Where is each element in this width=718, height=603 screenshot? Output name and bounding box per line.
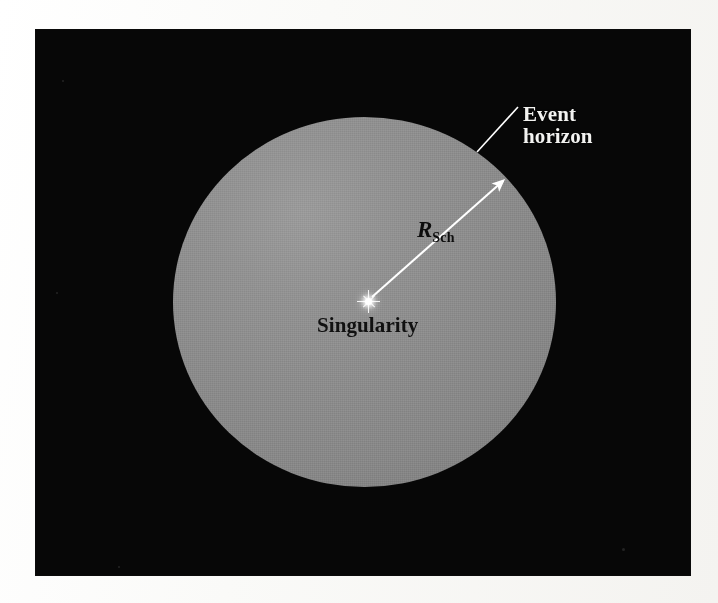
label-schwarzschild-radius: RSch [417, 218, 455, 242]
label-event-horizon-line1: Event [523, 103, 593, 125]
scan-speck [622, 548, 625, 551]
scan-speck [56, 292, 58, 294]
sphere-vignette [173, 117, 556, 487]
label-singularity: Singularity [317, 314, 418, 336]
label-event-horizon-line2: horizon [523, 125, 593, 147]
radius-subscript: Sch [432, 230, 454, 245]
figure-root: Event horizon RSch Singularity [0, 0, 718, 603]
scan-speck [118, 566, 120, 568]
scan-speck [62, 80, 64, 82]
radius-symbol: R [417, 217, 432, 242]
label-event-horizon: Event horizon [523, 103, 593, 147]
event-horizon-sphere [173, 117, 556, 487]
